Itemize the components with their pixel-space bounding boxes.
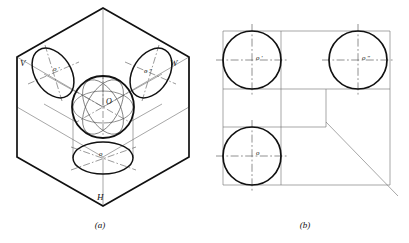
canvas-background [0,0,409,243]
figure-root: V W H o ′ o ″ O o [0,0,409,243]
point-label-o-center: O [106,97,112,106]
caption-a: (a) [95,220,106,230]
caption-b: (b) [300,220,311,230]
technical-drawing-canvas: V W H o ′ o ″ O o [0,0,409,243]
point-label-o-top: o [99,150,103,158]
view-point-label-o-top: o [256,149,260,157]
view-point-label-o-front: o ′ [256,54,263,62]
point-label-o-side: o ″ [144,67,152,75]
plane-label-h: H [96,192,104,202]
view-point-label-o-side: o ″ [362,54,370,62]
point-label-o-front: o ′ [53,65,60,73]
